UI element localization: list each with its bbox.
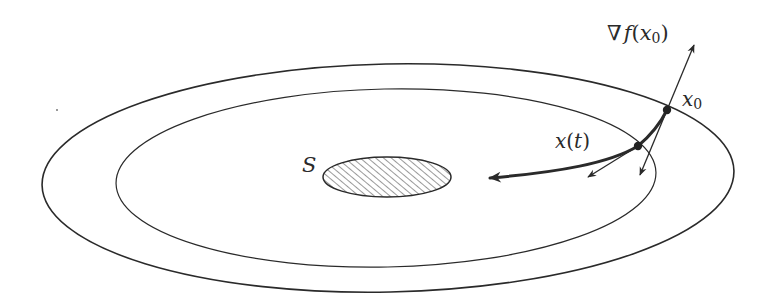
gradient-label: ∇f(x0) xyxy=(607,21,669,46)
point-xt xyxy=(634,142,642,150)
label-paren: ( xyxy=(631,21,639,45)
x0-label: x0 xyxy=(682,87,702,112)
speck-dot xyxy=(56,109,58,111)
target-set-s xyxy=(323,157,451,197)
label-paren: ) xyxy=(582,129,590,153)
label-x: x xyxy=(555,129,566,153)
label-subscript: 0 xyxy=(652,30,661,46)
set-label: S xyxy=(302,153,316,177)
gradient-flow-diagram: ∇f(x0) x0 x(t) S xyxy=(0,0,774,299)
nabla-symbol: ∇ xyxy=(607,21,622,45)
point-x0 xyxy=(663,106,671,114)
label-paren: ) xyxy=(660,21,668,45)
label-x: x xyxy=(682,87,693,111)
label-subscript: 0 xyxy=(693,96,702,112)
trajectory-label: x(t) xyxy=(555,129,590,153)
label-paren: ( xyxy=(566,129,574,153)
label-x: x xyxy=(640,21,652,45)
